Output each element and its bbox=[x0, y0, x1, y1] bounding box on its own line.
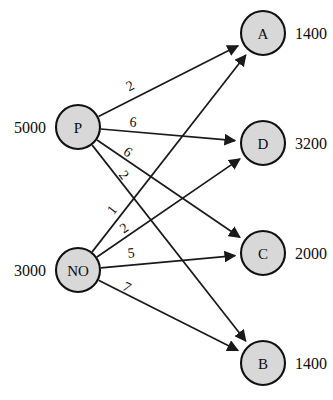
node-label-b: B bbox=[258, 356, 268, 372]
edge-no-to-c bbox=[101, 256, 235, 268]
node-label-p: P bbox=[74, 120, 82, 136]
node-label-a: A bbox=[258, 26, 269, 42]
demand-value-c: 2000 bbox=[295, 245, 327, 262]
edges-layer bbox=[92, 46, 246, 351]
edge-cost-no-d: 2 bbox=[117, 220, 131, 236]
node-a: A1400 bbox=[241, 11, 327, 55]
edge-cost-no-c: 5 bbox=[127, 245, 135, 261]
node-p: P5000 bbox=[14, 105, 100, 149]
supply-value-p: 5000 bbox=[14, 119, 46, 136]
edge-p-to-a bbox=[99, 46, 239, 117]
node-label-c: C bbox=[258, 246, 268, 262]
network-diagram: P5000NO3000A1400D3200C2000B1400 26621257 bbox=[0, 0, 333, 400]
edge-no-to-b bbox=[99, 280, 238, 350]
node-label-no: NO bbox=[67, 263, 89, 279]
nodes-layer: P5000NO3000A1400D3200C2000B1400 bbox=[14, 11, 327, 385]
edge-cost-p-d: 6 bbox=[129, 114, 137, 130]
demand-value-a: 1400 bbox=[295, 25, 327, 42]
edge-p-to-d bbox=[101, 129, 235, 141]
node-d: D3200 bbox=[241, 121, 327, 165]
supply-value-no: 3000 bbox=[14, 262, 46, 279]
edge-cost-no-a: 1 bbox=[104, 203, 120, 218]
node-c: C2000 bbox=[241, 231, 327, 275]
edge-no-to-a bbox=[92, 55, 246, 252]
edge-cost-p-b: 2 bbox=[116, 168, 132, 183]
edge-cost-p-a: 2 bbox=[123, 78, 136, 95]
demand-value-d: 3200 bbox=[295, 135, 327, 152]
edge-cost-no-b: 7 bbox=[121, 279, 134, 296]
node-no: NO3000 bbox=[14, 248, 100, 292]
node-label-d: D bbox=[258, 136, 269, 152]
diagram-canvas: P5000NO3000A1400D3200C2000B1400 26621257 bbox=[0, 0, 333, 400]
demand-value-b: 1400 bbox=[295, 355, 327, 372]
edge-p-to-b bbox=[92, 145, 246, 341]
node-b: B1400 bbox=[241, 341, 327, 385]
